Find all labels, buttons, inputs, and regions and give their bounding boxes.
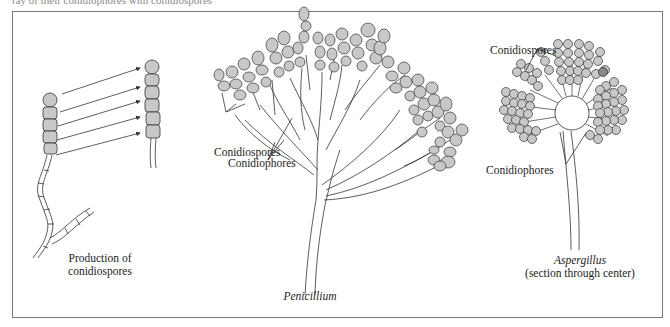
penicillium-conidiophores-label: Conidiophores (228, 157, 296, 170)
production-caption: Production of conidiospores (40, 252, 160, 278)
production-caption-line1: Production of (40, 252, 160, 265)
aspergillus-conidiospores-label: Conidiospores (490, 44, 556, 57)
aspergillus-diagram (500, 40, 629, 251)
aspergillus-caption-sub: (section through center) (520, 267, 640, 280)
penicillium-caption: Penicillium (260, 290, 360, 303)
aspergillus-conidiophores-label: Conidiophores (486, 164, 554, 177)
production-caption-line2: conidiospores (40, 265, 160, 278)
aspergillus-caption-name: Aspergillus (520, 254, 640, 267)
production-diagram (33, 60, 160, 258)
aspergillus-caption: Aspergillus (section through center) (520, 254, 640, 280)
